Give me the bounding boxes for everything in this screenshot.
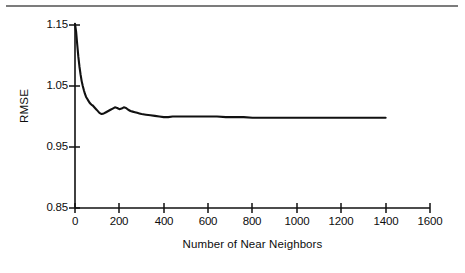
y-tick-label-0: 0.85 — [24, 201, 68, 213]
figure-root: 1.15 1.05 0.95 0.85 0 200 400 600 800 10… — [0, 0, 465, 273]
plot-canvas — [0, 0, 465, 273]
y-tick-label-2: 1.05 — [24, 79, 68, 91]
data-series-group — [75, 24, 386, 118]
x-tick-label-4: 800 — [232, 215, 272, 227]
rmse-line-chart: 1.15 1.05 0.95 0.85 0 200 400 600 800 10… — [0, 0, 465, 273]
x-tick-label-0: 0 — [55, 215, 95, 227]
x-axis-title: Number of Near Neighbors — [75, 238, 430, 250]
y-tick-label-1: 0.95 — [24, 140, 68, 152]
y-tick-label-3: 1.15 — [24, 18, 68, 30]
x-tick-label-7: 1400 — [364, 215, 408, 227]
series-line-rmse — [75, 24, 386, 118]
x-tick-label-8: 1600 — [408, 215, 452, 227]
x-tick-label-2: 400 — [144, 215, 184, 227]
x-tick-label-1: 200 — [99, 215, 139, 227]
x-tick-label-6: 1200 — [319, 215, 363, 227]
y-axis-title: RMSE — [18, 76, 30, 136]
x-tick-label-5: 1000 — [275, 215, 319, 227]
x-tick-label-3: 600 — [188, 215, 228, 227]
